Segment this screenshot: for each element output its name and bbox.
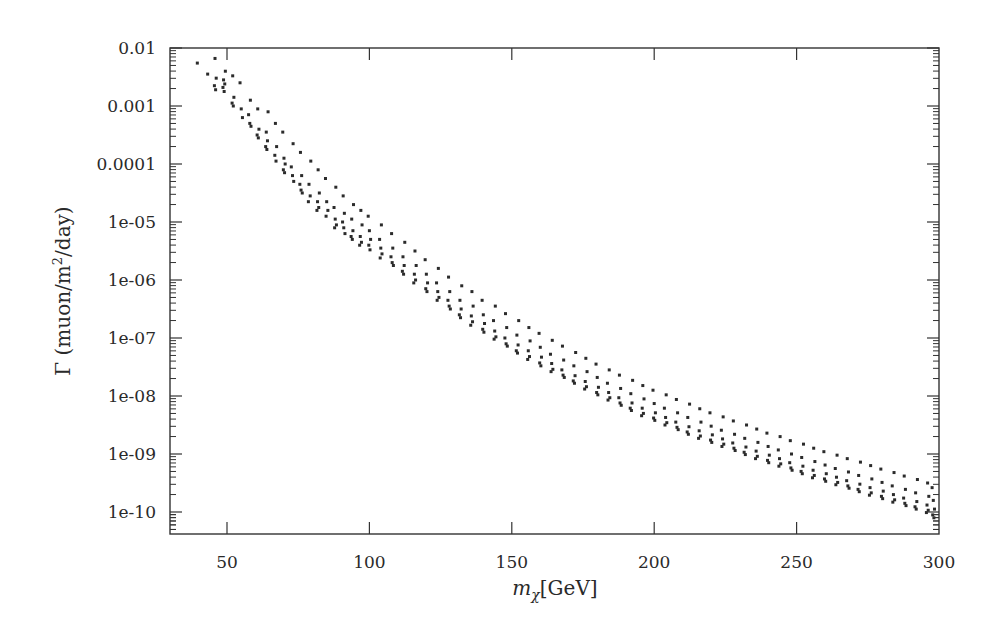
data-point bbox=[777, 465, 780, 468]
data-point bbox=[401, 270, 404, 273]
data-point bbox=[663, 424, 666, 427]
data-point bbox=[309, 160, 312, 163]
data-point bbox=[550, 362, 553, 365]
data-point bbox=[316, 200, 319, 203]
x-tick-label: 250 bbox=[780, 552, 812, 572]
data-point bbox=[608, 368, 611, 371]
data-point bbox=[708, 411, 711, 414]
data-point bbox=[342, 226, 345, 229]
y-tick-label: 1e-06 bbox=[108, 270, 156, 290]
plot-frame bbox=[170, 48, 939, 534]
data-point bbox=[597, 386, 600, 389]
data-point bbox=[698, 407, 701, 410]
data-point bbox=[744, 453, 747, 456]
data-point bbox=[247, 113, 250, 116]
data-point bbox=[291, 174, 294, 177]
data-point bbox=[845, 479, 848, 482]
data-point bbox=[412, 281, 415, 284]
data-point bbox=[196, 62, 199, 65]
data-point bbox=[789, 439, 792, 442]
data-point bbox=[359, 235, 362, 238]
data-point bbox=[527, 326, 530, 329]
data-point bbox=[653, 419, 656, 422]
data-point bbox=[503, 337, 506, 340]
data-point bbox=[699, 421, 702, 424]
data-point bbox=[282, 168, 285, 171]
data-point bbox=[214, 88, 217, 91]
data-point bbox=[273, 154, 276, 157]
data-point bbox=[859, 461, 862, 464]
data-point bbox=[630, 409, 633, 412]
data-point bbox=[617, 396, 620, 399]
data-point bbox=[619, 387, 622, 390]
data-point bbox=[745, 424, 748, 427]
data-point bbox=[469, 324, 472, 327]
data-point bbox=[687, 425, 690, 428]
data-point bbox=[459, 316, 462, 319]
x-tick-label: 100 bbox=[353, 552, 385, 572]
data-point bbox=[401, 255, 404, 258]
data-point bbox=[391, 261, 394, 264]
data-point bbox=[483, 322, 486, 325]
data-point bbox=[596, 376, 599, 379]
data-point bbox=[788, 461, 791, 464]
data-point bbox=[481, 328, 484, 331]
data-point bbox=[213, 84, 216, 87]
data-point bbox=[677, 428, 680, 431]
data-point bbox=[333, 206, 336, 209]
data-point bbox=[811, 476, 814, 479]
data-point bbox=[927, 495, 930, 498]
data-point bbox=[640, 414, 643, 417]
data-point bbox=[812, 447, 815, 450]
data-point bbox=[231, 102, 234, 105]
data-point bbox=[891, 484, 894, 487]
data-point bbox=[257, 136, 260, 139]
data-point bbox=[926, 482, 929, 485]
data-point bbox=[425, 273, 428, 276]
data-point bbox=[301, 192, 304, 195]
data-point bbox=[834, 483, 837, 486]
data-point bbox=[721, 437, 724, 440]
data-point bbox=[307, 183, 310, 186]
data-point bbox=[846, 457, 849, 460]
data-point bbox=[437, 267, 440, 270]
data-point bbox=[424, 287, 427, 290]
data-point bbox=[309, 194, 312, 197]
data-point bbox=[326, 209, 329, 212]
data-point bbox=[893, 471, 896, 474]
data-point bbox=[824, 480, 827, 483]
data-point bbox=[299, 151, 302, 154]
data-point bbox=[516, 352, 519, 355]
data-point bbox=[223, 90, 226, 93]
data-point bbox=[413, 273, 416, 276]
data-point bbox=[214, 57, 217, 60]
data-point bbox=[675, 398, 678, 401]
data-point bbox=[449, 308, 452, 311]
data-point bbox=[361, 223, 364, 226]
data-point bbox=[801, 472, 804, 475]
data-point bbox=[574, 374, 577, 377]
data-point bbox=[835, 476, 838, 479]
data-point bbox=[858, 490, 861, 493]
data-point bbox=[248, 122, 251, 125]
data-point bbox=[333, 226, 336, 229]
data-point bbox=[224, 70, 227, 73]
data-point bbox=[317, 168, 320, 171]
data-point bbox=[527, 349, 530, 352]
data-point bbox=[292, 180, 295, 183]
data-point bbox=[402, 273, 405, 276]
data-point bbox=[869, 486, 872, 489]
data-point bbox=[369, 238, 372, 241]
data-point bbox=[550, 370, 553, 373]
data-point bbox=[755, 428, 758, 431]
data-point bbox=[341, 221, 344, 224]
data-point bbox=[460, 308, 463, 311]
data-point bbox=[392, 264, 395, 267]
data-point bbox=[664, 416, 667, 419]
data-point bbox=[869, 464, 872, 467]
data-point bbox=[281, 131, 284, 134]
data-point bbox=[631, 379, 634, 382]
data-point bbox=[515, 334, 518, 337]
data-point bbox=[472, 305, 475, 308]
data-point bbox=[378, 238, 381, 241]
